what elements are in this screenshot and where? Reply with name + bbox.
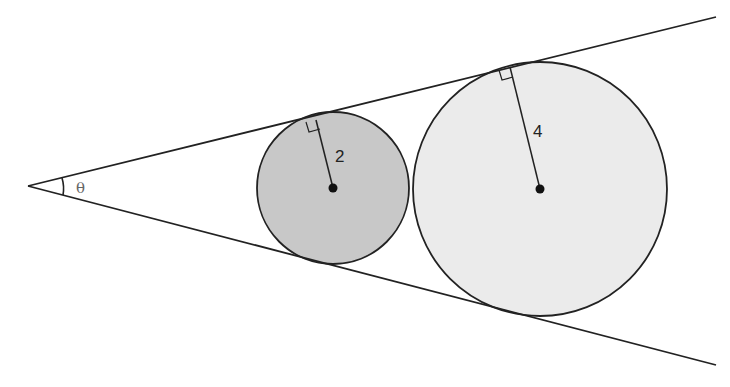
large-center-dot bbox=[536, 185, 545, 194]
angle-label: θ bbox=[76, 179, 85, 197]
large-radius-label: 4 bbox=[533, 122, 542, 141]
tangent-circles-diagram: θ 2 4 bbox=[0, 0, 730, 387]
small-center-dot bbox=[329, 184, 338, 193]
angle-arc bbox=[62, 178, 64, 195]
small-radius-label: 2 bbox=[335, 147, 344, 166]
